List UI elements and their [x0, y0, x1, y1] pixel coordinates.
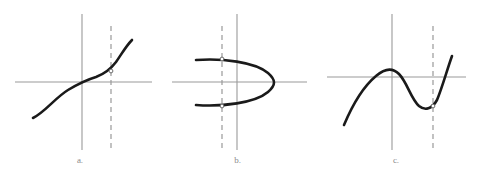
panel-c-graph [315, 0, 477, 178]
panel-b-intersection-marker-upper [220, 57, 224, 61]
vertical-line-test-figure: a. b. c. [0, 0, 477, 178]
panel-c-intersection-marker [431, 104, 435, 108]
panel-c-curve [344, 56, 452, 125]
panel-a: a. [0, 0, 160, 178]
panel-b-label: b. [160, 155, 315, 165]
panel-a-graph [0, 0, 160, 178]
panel-a-label: a. [0, 155, 160, 165]
panel-c: c. [315, 0, 477, 178]
panel-b-intersection-marker-lower [220, 104, 224, 108]
panel-b: b. [160, 0, 315, 178]
panel-c-label: c. [315, 155, 477, 165]
panel-a-intersection-marker [109, 69, 113, 73]
panel-b-graph [160, 0, 315, 178]
